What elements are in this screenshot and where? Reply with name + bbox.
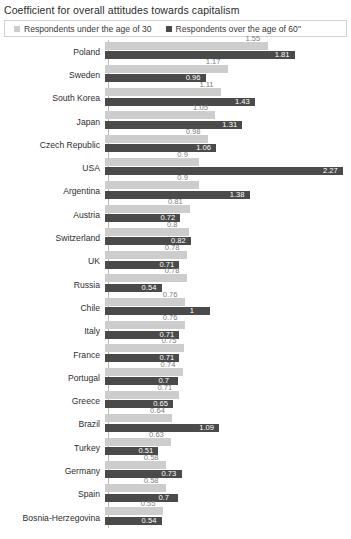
- chart-row: Germany0.580.73: [0, 459, 351, 482]
- bar-group: 0.760.71: [104, 320, 351, 343]
- bar-wrapper: 0.54: [105, 517, 351, 525]
- chart-row: Turkey0.630.51: [0, 436, 351, 459]
- bar-wrapper: 0.98: [105, 135, 351, 143]
- bar-value-label: 0.58: [144, 477, 159, 485]
- category-label: France: [0, 350, 104, 360]
- bar-group: 0.810.72: [104, 203, 351, 226]
- bar-wrapper: 0.96: [105, 74, 351, 82]
- bar-over-60[interactable]: [105, 98, 255, 106]
- bar-group: 1.051.31: [104, 110, 351, 133]
- bar-wrapper: 0.63: [105, 438, 351, 446]
- bar-value-label: 0.9: [177, 174, 188, 182]
- category-label: Brazil: [0, 419, 104, 429]
- category-label: Spain: [0, 489, 104, 499]
- bar-under-30[interactable]: [105, 88, 221, 96]
- chart-row: Sweden1.170.96: [0, 63, 351, 86]
- category-label: Switzerland: [0, 233, 104, 243]
- bar-value-label: 1.38: [230, 191, 245, 199]
- chart-row: Brazil0.641.09: [0, 413, 351, 436]
- bar-value-label: 0.71: [157, 384, 172, 392]
- category-label: Chile: [0, 303, 104, 313]
- bar-group: 0.740.7: [104, 366, 351, 389]
- bar-under-30[interactable]: [105, 507, 163, 515]
- bar-under-30[interactable]: [105, 274, 187, 282]
- bar-under-30[interactable]: [105, 228, 189, 236]
- bar-under-30[interactable]: [105, 438, 171, 446]
- bar-under-30[interactable]: [105, 135, 208, 143]
- bar-under-30[interactable]: [105, 414, 172, 422]
- bar-value-label: 2.27: [323, 167, 338, 175]
- bar-wrapper: 0.7: [105, 377, 351, 385]
- legend-label-under-30: Respondents under the age of 30: [24, 24, 152, 34]
- bar-under-30[interactable]: [105, 251, 187, 259]
- bar-group: 1.170.96: [104, 63, 351, 86]
- bar-under-30[interactable]: [105, 391, 179, 399]
- bar-value-label: 0.76: [163, 291, 178, 299]
- category-label: UK: [0, 256, 104, 266]
- bar-over-60[interactable]: [105, 307, 210, 315]
- category-label: Greece: [0, 396, 104, 406]
- chart-row: Bosnia-Herzegovina0.550.54: [0, 506, 351, 529]
- bar-under-30[interactable]: [105, 205, 190, 213]
- bar-value-label: 0.96: [186, 74, 201, 82]
- bar-group: 0.780.71: [104, 250, 351, 273]
- bar-under-30[interactable]: [105, 42, 268, 50]
- bar-group: 0.761: [104, 296, 351, 319]
- bar-value-label: 1: [190, 307, 194, 315]
- bar-wrapper: 0.55: [105, 507, 351, 515]
- bar-under-30[interactable]: [105, 321, 185, 329]
- category-label: Italy: [0, 326, 104, 336]
- bar-under-30[interactable]: [105, 181, 199, 189]
- bar-value-label: 1.05: [193, 104, 208, 112]
- bar-value-label: 1.81: [275, 51, 290, 59]
- bar-wrapper: 1.43: [105, 98, 351, 106]
- bar-over-60[interactable]: [105, 51, 295, 59]
- bar-under-30[interactable]: [105, 368, 183, 376]
- page-title: Coefficient for overall attitudes toward…: [0, 0, 351, 17]
- bar-under-30[interactable]: [105, 158, 199, 166]
- bar-under-30[interactable]: [105, 298, 185, 306]
- category-label: Turkey: [0, 443, 104, 453]
- category-label: USA: [0, 163, 104, 173]
- bar-value-label: 1.55: [246, 35, 261, 43]
- legend-item-under-30[interactable]: Respondents under the age of 30: [14, 24, 152, 34]
- bar-wrapper: 0.71: [105, 391, 351, 399]
- bar-value-label: 0.74: [161, 361, 176, 369]
- bar-wrapper: 1.11: [105, 88, 351, 96]
- bar-group: 0.550.54: [104, 506, 351, 529]
- bar-under-30[interactable]: [105, 111, 215, 119]
- bar-wrapper: 0.58: [105, 484, 351, 492]
- bar-wrapper: 0.71: [105, 331, 351, 339]
- bar-value-label: 0.9: [177, 151, 188, 159]
- bar-wrapper: 0.78: [105, 274, 351, 282]
- bar-wrapper: 0.76: [105, 321, 351, 329]
- bar-under-30[interactable]: [105, 484, 166, 492]
- bar-value-label: 1.43: [235, 98, 250, 106]
- bar-wrapper: 0.9: [105, 181, 351, 189]
- bar-wrapper: 1: [105, 307, 351, 315]
- category-label: Germany: [0, 466, 104, 476]
- bar-value-label: 0.76: [163, 314, 178, 322]
- bar-wrapper: 1.17: [105, 65, 351, 73]
- bar-group: 0.630.51: [104, 436, 351, 459]
- bar-value-label: 0.98: [186, 128, 201, 136]
- bar-value-label: 1.17: [206, 58, 221, 66]
- bar-wrapper: 0.74: [105, 368, 351, 376]
- bar-under-30[interactable]: [105, 461, 166, 469]
- bar-group: 0.92.27: [104, 156, 351, 179]
- bar-group: 0.580.73: [104, 459, 351, 482]
- bar-group: 0.80.82: [104, 226, 351, 249]
- plot-area: Poland1.551.81Sweden1.170.96South Korea1…: [0, 40, 351, 534]
- bar-under-30[interactable]: [105, 65, 228, 73]
- bar-value-label: 0.78: [165, 267, 180, 275]
- bar-wrapper: 0.75: [105, 344, 351, 352]
- bar-over-60[interactable]: [105, 167, 343, 175]
- chart-row: USA0.92.27: [0, 156, 351, 179]
- bar-wrapper: 0.76: [105, 298, 351, 306]
- bar-value-label: 0.55: [141, 500, 156, 508]
- legend-item-over-60[interactable]: Respondents over the age of 60": [166, 24, 301, 34]
- bar-wrapper: 1.09: [105, 424, 351, 432]
- bar-value-label: 1.06: [196, 144, 211, 152]
- bar-under-30[interactable]: [105, 344, 184, 352]
- category-label: Austria: [0, 210, 104, 220]
